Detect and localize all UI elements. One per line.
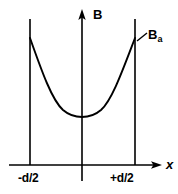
x-axis-label: x: [166, 158, 173, 171]
applied-field-base: B: [148, 27, 157, 42]
x-tick-label-left: -d/2: [18, 172, 39, 184]
annotation-leader-line: [137, 33, 147, 41]
x-tick-label-right: +d/2: [110, 172, 134, 184]
y-axis-label: B: [93, 8, 102, 21]
applied-field-annotation: Ba: [148, 28, 162, 44]
applied-field-subscript: a: [157, 34, 162, 44]
figure-container: B x Ba -d/2 +d/2: [0, 0, 178, 194]
